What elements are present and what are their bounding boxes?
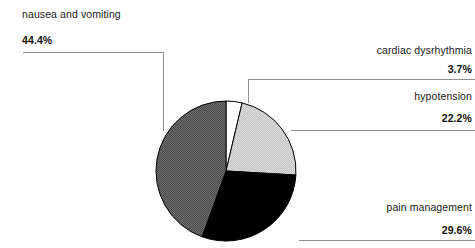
slice-label-pain-management: pain management <box>386 201 472 213</box>
slice-percent-hypotension: 22.2% <box>442 112 472 124</box>
leader-line-nausea-horizontal <box>23 52 164 53</box>
slice-percent-pain-management: 29.6% <box>442 224 472 236</box>
leader-line-hypotension-horizontal <box>291 130 475 131</box>
slice-percent-cardiac-dysrhythmia: 3.7% <box>448 63 472 75</box>
slice-label-cardiac-dysrhythmia: cardiac dysrhythmia <box>377 44 472 56</box>
slice-label-hypotension: hypotension <box>414 90 472 102</box>
slice-label-nausea-and-vomiting: nausea and vomiting <box>22 8 121 20</box>
leader-line-cardiac-horizontal <box>248 79 475 80</box>
pie-chart-figure: nausea and vomiting 44.4% cardiac dysrhy… <box>0 0 475 248</box>
slice-percent-nausea-and-vomiting: 44.4% <box>22 34 52 46</box>
leader-line-pain-horizontal <box>299 240 475 241</box>
pie-slices <box>156 101 296 241</box>
pie-graphic <box>155 100 297 242</box>
pie-svg <box>155 100 297 242</box>
